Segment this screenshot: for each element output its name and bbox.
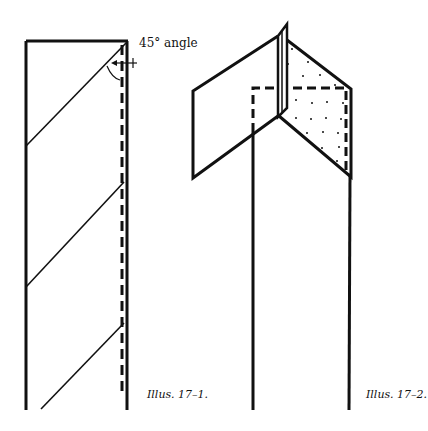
illustration-canvas [0, 0, 428, 431]
caption-illus-17-2: Illus. 17–2. [366, 388, 427, 401]
angle-annotation: 45° angle [139, 36, 198, 50]
figure-17-2-drawing [193, 24, 351, 410]
caption-illus-17-1: Illus. 17–1. [147, 388, 208, 401]
figure-17-1-drawing [26, 41, 137, 410]
